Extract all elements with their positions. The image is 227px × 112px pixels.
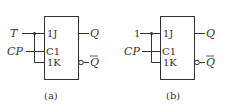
flip-flop-figure: T CP 1J C1 1K Q Q (a) 1 CP 1J C1 1K Q Q … — [0, 0, 227, 112]
output-label-qbar: Q — [90, 56, 99, 69]
pin-label-k: 1K — [47, 57, 61, 68]
input-label-cp: CP — [7, 45, 23, 58]
inversion-bubble — [79, 60, 84, 65]
pin-label-k: 1K — [163, 57, 177, 68]
junction-dot — [150, 32, 153, 35]
output-label-q: Q — [90, 27, 99, 40]
pin-label-j: 1J — [163, 28, 173, 39]
inversion-bubble — [195, 60, 200, 65]
pin-label-j: 1J — [47, 28, 57, 39]
pin-label-c: C1 — [46, 46, 60, 57]
output-label-qbar: Q — [206, 56, 215, 69]
input-label-one: 1 — [134, 28, 140, 39]
k-tie-wire — [152, 34, 161, 63]
output-label-q: Q — [206, 27, 215, 40]
junction-dot — [33, 32, 36, 35]
caption-b: (b) — [166, 90, 180, 101]
input-label-t: T — [10, 27, 19, 40]
k-tie-wire — [35, 34, 45, 63]
caption-a: (a) — [44, 90, 58, 101]
pin-label-c: C1 — [162, 46, 176, 57]
input-label-cp: CP — [124, 45, 140, 58]
